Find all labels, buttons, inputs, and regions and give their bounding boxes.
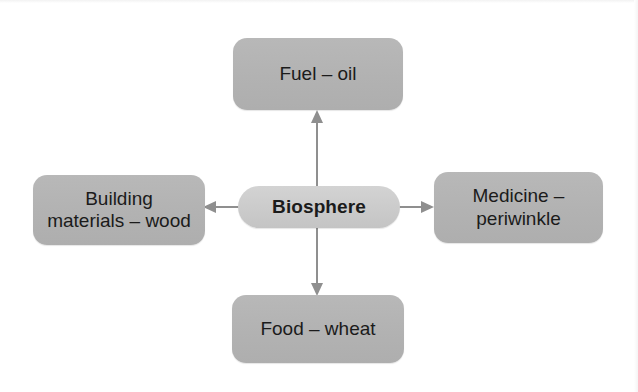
node-medicine-label: Medicine – periwinkle	[473, 185, 565, 230]
connector-line-up	[316, 112, 318, 188]
node-medicine[interactable]: Medicine – periwinkle	[434, 172, 603, 243]
scan-edge-top	[0, 0, 638, 3]
node-building-materials[interactable]: Building materials – wood	[33, 175, 205, 245]
connector-line-down	[316, 228, 318, 288]
arrowhead-right-icon	[421, 201, 434, 213]
node-biosphere-label: Biosphere	[272, 196, 366, 218]
node-biosphere-hub[interactable]: Biosphere	[238, 186, 400, 228]
node-fuel[interactable]: Fuel – oil	[233, 38, 403, 110]
scan-edge-right	[634, 0, 638, 392]
diagram-canvas: Fuel – oil Building materials – wood Med…	[0, 0, 638, 392]
arrowhead-up-icon	[311, 110, 323, 123]
node-fuel-label: Fuel – oil	[279, 63, 356, 85]
node-food-label: Food – wheat	[260, 318, 375, 340]
node-food[interactable]: Food – wheat	[232, 295, 404, 363]
node-building-materials-label: Building materials – wood	[47, 188, 191, 233]
